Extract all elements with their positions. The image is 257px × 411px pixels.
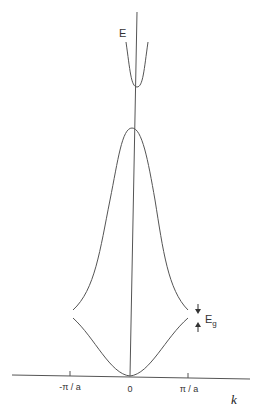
gap-label-sub: g — [212, 319, 216, 328]
gap-arrows — [195, 304, 201, 332]
tick-label-neg-pi: -π / a — [59, 382, 81, 392]
upper-band-curve — [73, 128, 188, 310]
e-axis — [130, 12, 137, 376]
gap-label: Eg — [205, 313, 217, 328]
tick-label-zero: 0 — [127, 384, 132, 394]
e-axis-label: E — [119, 27, 126, 39]
tick-label-pos-pi: π / a — [180, 384, 199, 394]
k-axis-label: k — [231, 392, 237, 407]
top-band-curve — [126, 42, 148, 87]
band-structure-diagram: E Eg -π / a 0 π / a k — [0, 0, 257, 411]
